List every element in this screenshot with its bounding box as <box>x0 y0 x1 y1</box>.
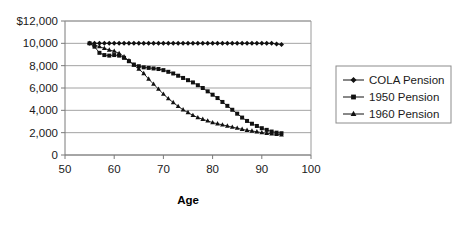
data-point-marker <box>196 83 200 87</box>
x-axis-tick-label: 80 <box>206 163 219 175</box>
y-axis-tick-label: 4,000 <box>29 104 58 116</box>
data-point-marker <box>206 89 210 93</box>
data-point-marker <box>274 41 279 46</box>
data-point-marker <box>97 51 101 55</box>
data-point-marker <box>171 100 176 104</box>
x-axis-tick-label: 60 <box>108 163 121 175</box>
data-point-marker <box>156 41 161 46</box>
chart-legend: COLA Pension1950 Pension1960 Pension <box>336 66 451 123</box>
data-point-marker <box>186 78 190 82</box>
data-point-marker <box>220 41 225 46</box>
data-point-marker <box>230 41 235 46</box>
data-point-marker <box>210 41 215 46</box>
y-axis-tick-labels: 02,0004,0006,0008,00010,000$12,000 <box>16 15 65 161</box>
data-point-marker <box>211 93 215 97</box>
data-point-marker <box>102 53 106 57</box>
data-point-marker <box>254 41 259 46</box>
y-axis-tick-label: 0 <box>52 149 58 161</box>
x-axis-tick-labels: 5060708090100 <box>59 155 321 175</box>
data-point-marker <box>166 41 171 46</box>
y-axis-tick-label: $12,000 <box>16 15 58 27</box>
data-point-marker <box>235 112 239 116</box>
data-point-marker <box>112 41 117 46</box>
data-point-marker <box>161 68 165 72</box>
y-axis-tick-label: 2,000 <box>29 127 58 139</box>
data-point-marker <box>255 124 259 128</box>
data-point-marker <box>122 41 127 46</box>
data-point-marker <box>240 41 245 46</box>
data-point-marker <box>156 67 160 71</box>
y-axis-tick-label: 6,000 <box>29 82 58 94</box>
data-point-marker <box>181 76 185 80</box>
data-point-marker <box>259 41 264 46</box>
data-point-marker <box>107 54 111 58</box>
data-series <box>87 41 284 137</box>
series-cola-pension <box>87 41 284 47</box>
data-point-marker <box>269 41 274 46</box>
data-point-marker <box>112 53 116 57</box>
data-point-marker <box>201 86 205 90</box>
data-point-marker <box>141 41 146 46</box>
data-point-marker <box>260 126 264 130</box>
data-point-marker <box>195 41 200 46</box>
data-point-marker <box>181 41 186 46</box>
x-axis-tick-label: 70 <box>157 163 170 175</box>
data-point-marker <box>176 74 180 78</box>
x-axis-title: Age <box>177 194 199 206</box>
data-point-marker <box>205 41 210 46</box>
data-point-marker <box>240 116 244 120</box>
chart-container: 02,0004,0006,0008,00010,000$12,000 50607… <box>0 0 459 225</box>
data-point-marker <box>152 66 156 70</box>
y-axis-tick-label: 8,000 <box>29 60 58 72</box>
data-point-marker <box>102 41 107 46</box>
x-axis-tick-label: 50 <box>59 163 72 175</box>
data-point-marker <box>146 41 151 46</box>
data-point-marker <box>191 80 195 84</box>
data-point-marker <box>117 41 122 46</box>
data-point-marker <box>147 66 151 70</box>
legend-marker-square-icon <box>351 95 356 100</box>
data-point-marker <box>107 41 112 46</box>
legend-entry-label: COLA Pension <box>369 74 444 86</box>
data-point-marker <box>131 41 136 46</box>
data-point-marker <box>250 122 254 126</box>
legend-entry-label: 1950 Pension <box>369 91 439 103</box>
data-point-marker <box>190 41 195 46</box>
pension-line-chart: 02,0004,0006,0008,00010,000$12,000 50607… <box>0 0 459 225</box>
data-point-marker <box>279 42 284 47</box>
data-point-marker <box>142 65 146 69</box>
data-point-marker <box>176 41 181 46</box>
data-point-marker <box>136 41 141 46</box>
data-point-marker <box>264 41 269 46</box>
data-point-marker <box>249 41 254 46</box>
data-point-marker <box>171 41 176 46</box>
data-point-marker <box>230 108 234 112</box>
data-point-marker <box>181 107 186 111</box>
data-point-marker <box>171 71 175 75</box>
legend-entry-label: 1960 Pension <box>369 108 439 120</box>
data-point-marker <box>200 41 205 46</box>
x-axis-tick-label: 100 <box>301 163 320 175</box>
data-point-marker <box>166 70 170 74</box>
data-point-marker <box>220 100 224 104</box>
data-point-marker <box>215 41 220 46</box>
data-point-marker <box>161 41 166 46</box>
data-point-marker <box>176 104 181 108</box>
data-point-marker <box>245 119 249 123</box>
data-point-marker <box>225 41 230 46</box>
x-axis-tick-label: 90 <box>255 163 268 175</box>
y-axis-tick-label: 10,000 <box>23 37 58 49</box>
data-point-marker <box>126 41 131 46</box>
data-point-marker <box>225 104 229 108</box>
data-point-marker <box>186 41 191 46</box>
data-point-marker <box>216 96 220 100</box>
data-point-marker <box>151 41 156 46</box>
data-point-marker <box>245 41 250 46</box>
data-point-marker <box>235 41 240 46</box>
